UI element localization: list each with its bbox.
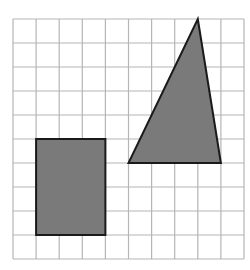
grid-diagram <box>0 0 250 270</box>
shaded-rectangle <box>36 139 105 235</box>
